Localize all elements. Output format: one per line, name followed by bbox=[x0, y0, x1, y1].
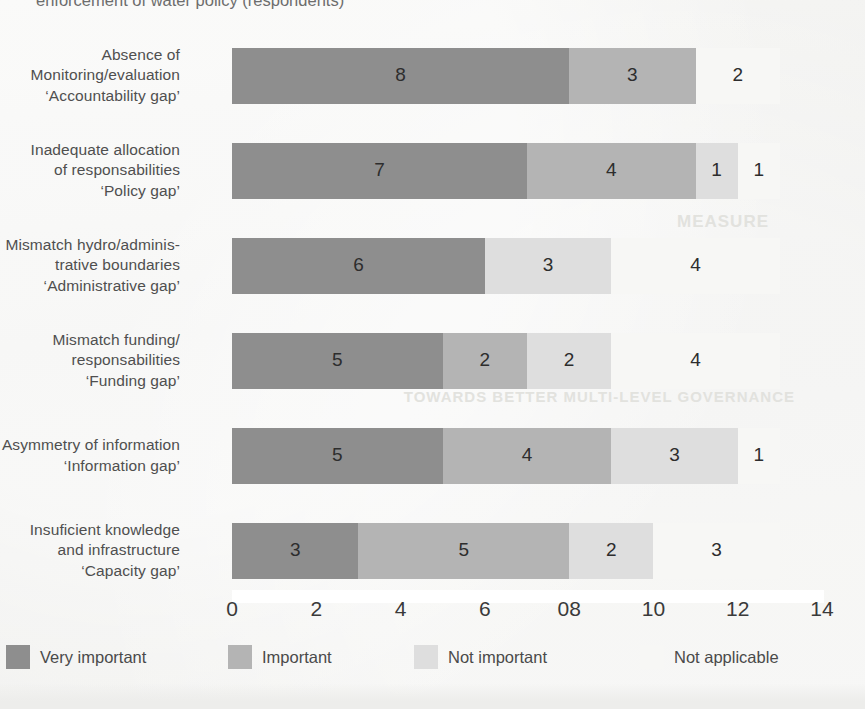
legend-item[interactable]: Very important bbox=[6, 645, 146, 669]
bar-segment-value: 3 bbox=[543, 254, 554, 276]
x-axis-tick: 10 bbox=[642, 597, 665, 621]
bar-segment-value: 7 bbox=[374, 159, 385, 181]
bar-segment[interactable]: 4 bbox=[527, 143, 696, 199]
legend-item[interactable]: Not applicable bbox=[640, 645, 779, 669]
row-category-label-line: Monitoring/evaluation bbox=[0, 65, 180, 85]
x-axis-tick: 12 bbox=[726, 597, 749, 621]
row-category-label-line: ‘Accountability gap’ bbox=[0, 86, 180, 106]
bar-segment-value: 5 bbox=[458, 539, 469, 561]
legend-swatch bbox=[414, 645, 438, 669]
bar-segment-value: 2 bbox=[732, 64, 743, 86]
legend-label: Not important bbox=[448, 648, 547, 667]
bar-segment-value: 1 bbox=[711, 159, 722, 181]
bar-segment[interactable]: 1 bbox=[696, 143, 738, 199]
x-axis-tick: 14 bbox=[810, 597, 833, 621]
bar-segment-value: 5 bbox=[332, 444, 343, 466]
chart-row: Mismatch hydro/adminis-trative boundarie… bbox=[0, 218, 865, 313]
row-category-label-line: ‘Information gap’ bbox=[0, 456, 180, 476]
bar-segment[interactable]: 4 bbox=[443, 428, 612, 484]
row-bar-track: 634 bbox=[196, 218, 865, 313]
bar-segment[interactable]: 3 bbox=[485, 238, 611, 294]
row-category-label-line: Absence of bbox=[0, 45, 180, 65]
bar-segment-value: 4 bbox=[522, 444, 533, 466]
row-category-label: Asymmetry of information‘Information gap… bbox=[0, 435, 196, 475]
bar-segment[interactable]: 5 bbox=[232, 428, 443, 484]
legend-label: Very important bbox=[40, 648, 146, 667]
bar-segment[interactable]: 5 bbox=[232, 333, 443, 389]
legend-swatch bbox=[228, 645, 252, 669]
bar-segment-value: 5 bbox=[332, 349, 343, 371]
row-category-label: Absence ofMonitoring/evaluation‘Accounta… bbox=[0, 45, 196, 105]
row-category-label-line: Mismatch hydro/adminis- bbox=[0, 235, 180, 255]
row-category-label-line: ‘Policy gap’ bbox=[0, 181, 180, 201]
x-axis-tick: 0 bbox=[226, 597, 238, 621]
bar-segment[interactable]: 3 bbox=[232, 523, 358, 579]
row-category-label-line: Inadequate allocation bbox=[0, 140, 180, 160]
bar-segment-value: 3 bbox=[669, 444, 680, 466]
bar-segment-value: 3 bbox=[627, 64, 638, 86]
chart-row: Inadequate allocationof responsabilities… bbox=[0, 123, 865, 218]
stacked-bar[interactable]: 832 bbox=[232, 48, 780, 104]
row-bar-track: 5431 bbox=[196, 408, 865, 503]
x-axis-tick-labels: 024608101214 bbox=[0, 597, 865, 631]
stacked-bar[interactable]: 3523 bbox=[232, 523, 780, 579]
caption-partial: enforcement of water policy (respondents… bbox=[36, 0, 344, 9]
bar-segment[interactable]: 2 bbox=[696, 48, 780, 104]
bar-segment[interactable]: 3 bbox=[569, 48, 695, 104]
chart-rows: Absence ofMonitoring/evaluation‘Accounta… bbox=[0, 28, 865, 598]
bar-segment-value: 3 bbox=[290, 539, 301, 561]
row-bar-track: 832 bbox=[196, 28, 865, 123]
row-bar-track: 5224 bbox=[196, 313, 865, 408]
bar-segment[interactable]: 2 bbox=[527, 333, 611, 389]
bar-segment[interactable]: 4 bbox=[611, 333, 780, 389]
bar-segment-value: 6 bbox=[353, 254, 364, 276]
bar-segment[interactable]: 7 bbox=[232, 143, 527, 199]
bar-segment[interactable]: 1 bbox=[738, 143, 780, 199]
legend-swatch bbox=[6, 645, 30, 669]
row-bar-track: 7411 bbox=[196, 123, 865, 218]
stacked-bar[interactable]: 5431 bbox=[232, 428, 780, 484]
bar-segment-value: 4 bbox=[690, 349, 701, 371]
bar-segment-value: 3 bbox=[711, 539, 722, 561]
bar-segment[interactable]: 4 bbox=[611, 238, 780, 294]
stacked-bar[interactable]: 7411 bbox=[232, 143, 780, 199]
stacked-bar[interactable]: 634 bbox=[232, 238, 780, 294]
stacked-bar-chart: Absence ofMonitoring/evaluation‘Accounta… bbox=[0, 0, 865, 709]
legend-label: Important bbox=[262, 648, 332, 667]
row-category-label-line: Asymmetry of information bbox=[0, 435, 180, 455]
legend-swatch bbox=[640, 645, 664, 669]
bar-segment-value: 2 bbox=[480, 349, 491, 371]
row-category-label-line: ‘Administrative gap’ bbox=[0, 276, 180, 296]
bar-segment[interactable]: 6 bbox=[232, 238, 485, 294]
bar-segment[interactable]: 8 bbox=[232, 48, 569, 104]
bar-segment[interactable]: 2 bbox=[569, 523, 653, 579]
bar-segment-value: 4 bbox=[606, 159, 617, 181]
scanned-page: MEASURE TOWARDS BETTER MULTI-LEVEL GOVER… bbox=[0, 0, 865, 709]
row-bar-track: 3523 bbox=[196, 503, 865, 598]
row-category-label-line: responsabilities bbox=[0, 350, 180, 370]
chart-legend: Very importantImportantNot importantNot … bbox=[0, 645, 865, 679]
row-category-label-line: and infrastructure bbox=[0, 540, 180, 560]
row-category-label-line: Mismatch funding/ bbox=[0, 330, 180, 350]
legend-item[interactable]: Not important bbox=[414, 645, 547, 669]
x-axis-tick: 4 bbox=[395, 597, 407, 621]
bar-segment-value: 8 bbox=[395, 64, 406, 86]
row-category-label-line: of responsabilities bbox=[0, 160, 180, 180]
x-axis-tick: 08 bbox=[557, 597, 580, 621]
legend-item[interactable]: Important bbox=[228, 645, 332, 669]
bar-segment-value: 1 bbox=[753, 444, 764, 466]
bar-segment[interactable]: 3 bbox=[611, 428, 737, 484]
chart-row: Insuficient knowledgeand infrastructure‘… bbox=[0, 503, 865, 598]
bar-segment[interactable]: 5 bbox=[358, 523, 569, 579]
bar-segment-value: 4 bbox=[690, 254, 701, 276]
row-category-label: Insuficient knowledgeand infrastructure‘… bbox=[0, 520, 196, 580]
row-category-label: Mismatch funding/responsabilities‘Fundin… bbox=[0, 330, 196, 390]
bar-segment[interactable]: 3 bbox=[653, 523, 779, 579]
bar-segment-value: 2 bbox=[606, 539, 617, 561]
row-category-label-line: Insuficient knowledge bbox=[0, 520, 180, 540]
bar-segment[interactable]: 2 bbox=[443, 333, 527, 389]
legend-label: Not applicable bbox=[674, 648, 779, 667]
row-category-label: Mismatch hydro/adminis-trative boundarie… bbox=[0, 235, 196, 295]
bar-segment[interactable]: 1 bbox=[738, 428, 780, 484]
stacked-bar[interactable]: 5224 bbox=[232, 333, 780, 389]
